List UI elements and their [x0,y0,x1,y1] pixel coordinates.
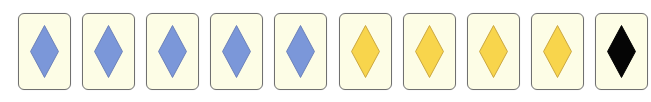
card-yellow-diamond[interactable] [403,13,456,90]
diamond-icon [83,14,134,89]
blue-diamond-shape [31,26,59,78]
diamond-icon [340,14,391,89]
diamond-icon [404,14,455,89]
diamond-icon [19,14,70,89]
yellow-diamond-shape [544,26,572,78]
card-yellow-diamond[interactable] [339,13,392,90]
blue-diamond-shape [287,26,315,78]
diamond-icon [468,14,519,89]
diamond-icon [147,14,198,89]
blue-diamond-shape [223,26,251,78]
card-yellow-diamond[interactable] [467,13,520,90]
diamond-icon [211,14,262,89]
yellow-diamond-shape [416,26,444,78]
diamond-icon [275,14,326,89]
card-row [0,0,651,102]
card-yellow-diamond[interactable] [531,13,584,90]
black-diamond-shape [608,26,636,78]
card-blue-diamond[interactable] [82,13,135,90]
card-black-diamond[interactable] [595,13,648,90]
yellow-diamond-shape [480,26,508,78]
card-blue-diamond[interactable] [146,13,199,90]
card-blue-diamond[interactable] [274,13,327,90]
blue-diamond-shape [95,26,123,78]
diamond-icon [596,14,647,89]
card-blue-diamond[interactable] [18,13,71,90]
blue-diamond-shape [159,26,187,78]
card-blue-diamond[interactable] [210,13,263,90]
yellow-diamond-shape [352,26,380,78]
diamond-icon [532,14,583,89]
